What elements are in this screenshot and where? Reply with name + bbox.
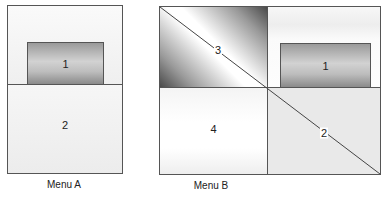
menu-b-top-right-region[interactable]: 1 bbox=[268, 7, 380, 88]
menu-a-region-2[interactable]: 2 bbox=[8, 85, 122, 173]
menu-b: 1 4 3 2 bbox=[159, 6, 381, 175]
menu-a-label-2: 2 bbox=[62, 120, 68, 131]
menu-a-top-region[interactable]: 1 bbox=[8, 6, 122, 85]
menu-b-button-1[interactable]: 1 bbox=[280, 43, 371, 88]
menu-b-label-4: 4 bbox=[210, 124, 216, 135]
menu-b-region-4[interactable]: 4 bbox=[160, 88, 268, 174]
menu-b-label-1: 1 bbox=[322, 60, 328, 71]
menu-a-caption: Menu A bbox=[47, 179, 81, 190]
menu-b-caption: Menu B bbox=[194, 180, 228, 191]
menu-b-label-3: 3 bbox=[214, 45, 222, 56]
menu-a-label-1: 1 bbox=[62, 58, 68, 69]
menu-a: 1 2 bbox=[7, 5, 123, 174]
menu-a-button-1[interactable]: 1 bbox=[27, 42, 104, 85]
menu-b-label-2: 2 bbox=[320, 128, 328, 139]
